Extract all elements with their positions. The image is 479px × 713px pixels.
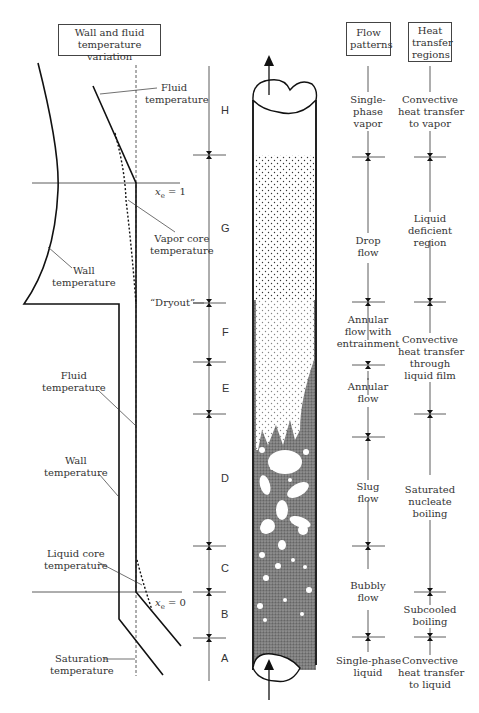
label-xe0: xe = 0	[155, 597, 186, 613]
label-saturation-temperature: Saturation temperature	[50, 653, 114, 677]
tube	[253, 55, 317, 700]
header-wall-fluid: Wall and fluid temperature variation	[58, 24, 161, 56]
flow-pattern-slug-flow: Slugflow	[346, 481, 390, 505]
region-F: F	[222, 326, 229, 338]
header-heat-transfer: Heat transfer regions	[408, 22, 452, 62]
label-vapor-core-temperature: Vapor core temperature	[150, 233, 214, 257]
region-C: C	[221, 562, 229, 574]
flow-pattern-drop-flow: Dropflow	[346, 235, 390, 259]
flow-pattern-bubbly-flow: Bubblyflow	[346, 580, 390, 604]
header-heat-line1: Heat	[412, 25, 448, 37]
heat-region-convective-vapor: Convectiveheat transferto vapor	[398, 94, 462, 130]
label-fluid-temperature-top: Fluid temperature	[145, 82, 209, 106]
label-dryout: “Dryout”	[150, 297, 195, 309]
heat-region-liquid-deficient: Liquiddeficientregion	[398, 213, 462, 249]
header-flow-line2: patterns	[350, 39, 387, 51]
flow-pattern-annular-flow: Annularflow	[346, 381, 390, 405]
label-fluid-temperature-mid: Fluid temperature	[42, 370, 106, 394]
header-flow-line1: Flow	[350, 27, 387, 39]
region-H: H	[221, 104, 229, 116]
heat-region-saturated-nucleate: Saturatednucleateboiling	[398, 484, 462, 520]
flow-pattern-single-phase-liquid: Single-phaseliquid	[336, 655, 400, 679]
region-E: E	[222, 382, 229, 394]
label-wall-temperature-top: Wall temperature	[52, 265, 116, 289]
heat-region-liquid-film: Convectiveheat transferthroughliquid fil…	[398, 334, 462, 382]
flow-pattern-annular-entrainment: Annularflow withentrainment	[336, 314, 400, 350]
region-D: D	[221, 472, 229, 484]
region-B: B	[221, 608, 228, 620]
heat-region-convective-liquid: Convectiveheat transferto liquid	[398, 655, 462, 691]
wall-temperature-curve	[24, 63, 163, 675]
header-flow-patterns: Flow patterns	[346, 22, 391, 56]
label-wall-temperature-mid: Wall temperature	[44, 455, 108, 479]
header-heat-line3: regions	[412, 49, 448, 61]
header-wall-fluid-line1: Wall and fluid	[62, 27, 157, 39]
label-xe1[interactable]: xe = 1	[155, 186, 186, 202]
header-heat-line2: transfer	[412, 37, 448, 49]
label-liquid-core-temperature: Liquid core temperature	[44, 548, 108, 572]
region-G: G	[221, 222, 230, 234]
region-A: A	[221, 652, 228, 664]
flow-pattern-single-phase-vapor: Single-phasevapor	[346, 94, 390, 130]
heat-region-subcooled-boiling: Subcooledboiling	[398, 604, 462, 628]
header-wall-fluid-line2: temperature variation	[62, 39, 157, 63]
